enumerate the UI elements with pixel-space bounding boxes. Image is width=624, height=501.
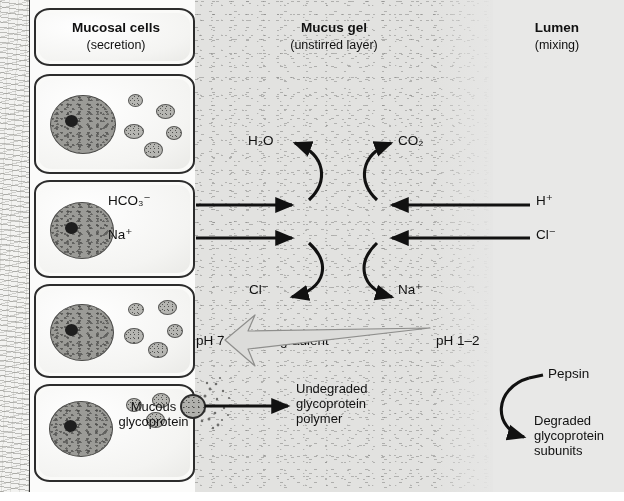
- curve-chloride-exchange: [292, 243, 322, 297]
- curve-water-production: [295, 143, 322, 200]
- curve-pepsin-digestion: [501, 378, 529, 437]
- gastric-mucosal-barrier-diagram: Mucosal cells (secretion) Mucus gel (uns…: [0, 0, 624, 501]
- curve-co2-production: [364, 143, 391, 200]
- pepsin-tick: [529, 375, 543, 378]
- transport-arrows-layer: [0, 0, 624, 501]
- curve-sodium-exchange: [364, 243, 392, 297]
